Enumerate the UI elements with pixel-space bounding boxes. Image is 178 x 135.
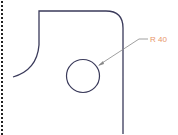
radius-dimension-label: R 40 bbox=[150, 35, 167, 44]
hole-circle bbox=[67, 60, 100, 93]
leader-arrowhead-icon bbox=[98, 61, 104, 66]
technical-drawing-canvas: R 40 bbox=[0, 0, 178, 135]
part-outline bbox=[13, 11, 123, 134]
